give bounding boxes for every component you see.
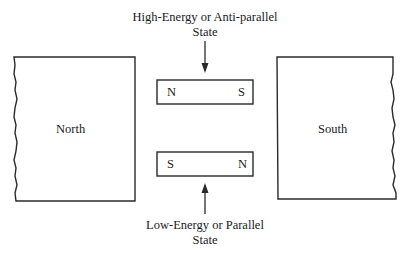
dipole-diagram: High-Energy or Anti-parallel State North… bbox=[0, 0, 407, 253]
anti-parallel-right-pole: S bbox=[238, 85, 245, 99]
bottom-caption-line2: State bbox=[105, 233, 305, 247]
anti-parallel-left-pole: N bbox=[167, 85, 176, 99]
top-caption-line1: High-Energy or Anti-parallel bbox=[105, 10, 305, 24]
north-magnet-label: North bbox=[56, 122, 85, 136]
parallel-right-pole: N bbox=[238, 157, 247, 171]
parallel-left-pole: S bbox=[167, 157, 174, 171]
bottom-caption-line1: Low-Energy or Parallel bbox=[105, 218, 305, 232]
up-arrow-icon bbox=[202, 183, 209, 214]
top-caption-line2: State bbox=[105, 25, 305, 39]
south-magnet-label: South bbox=[318, 122, 347, 136]
down-arrow-icon bbox=[202, 41, 209, 73]
